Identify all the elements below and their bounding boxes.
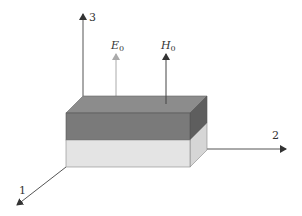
top-face [66,96,207,113]
h-field-label: H0 [160,39,176,53]
e-field-label: E0 [110,39,124,53]
laminate-diagram: 3 2 1 E0 H0 [0,0,302,216]
axis-2-label: 2 [272,129,279,142]
front-upper-layer [66,113,190,140]
axis-1-label: 1 [19,184,26,197]
axis-3-label: 3 [89,11,96,24]
front-lower-layer [66,140,190,167]
